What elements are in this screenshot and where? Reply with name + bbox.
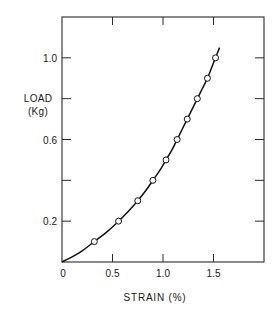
plot-frame <box>62 17 264 262</box>
tick-labels: 00.51.01.50.20.61.0 <box>43 53 221 279</box>
x-tick-label: 1.0 <box>156 268 170 279</box>
data-point-marker <box>150 177 156 183</box>
axes-box <box>62 17 264 262</box>
x-axis-label: STRAIN (%) <box>100 292 210 303</box>
axis-ticks <box>62 17 264 262</box>
chart-canvas: 00.51.01.50.20.61.0 <box>0 0 278 315</box>
data-point-marker <box>194 96 200 102</box>
data-point-marker <box>204 75 210 81</box>
data-point-marker <box>116 218 122 224</box>
x-tick-label: 0 <box>60 268 66 279</box>
data-point-marker <box>135 198 141 204</box>
y-tick-label: 0.2 <box>43 216 57 227</box>
fit-curve <box>62 48 220 262</box>
data-point-marker <box>213 55 219 61</box>
y-axis-label: LOAD (Kg) <box>18 92 58 118</box>
y-axis-label-line1: LOAD <box>18 92 58 105</box>
y-tick-label: 0.6 <box>43 135 57 146</box>
x-tick-label: 1.5 <box>207 268 221 279</box>
data-point-marker <box>174 137 180 143</box>
y-tick-label: 1.0 <box>43 53 57 64</box>
data-points <box>91 55 218 245</box>
y-axis-label-line2: (Kg) <box>18 105 58 118</box>
data-point-marker <box>163 157 169 163</box>
data-point-marker <box>184 116 190 122</box>
data-point-marker <box>91 239 97 245</box>
fit-curve-path <box>62 48 220 262</box>
x-tick-label: 0.5 <box>106 268 120 279</box>
